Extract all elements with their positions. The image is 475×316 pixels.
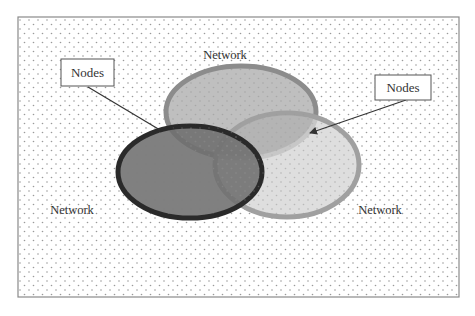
- network-label-left: Network: [50, 203, 94, 217]
- network-label-top: Network: [203, 48, 247, 62]
- venn-diagram: Nodes Nodes Network Network Network: [0, 0, 475, 316]
- nodes-label-right: Nodes: [386, 80, 419, 95]
- network-label-right: Network: [358, 203, 402, 217]
- nodes-label-left: Nodes: [71, 65, 104, 80]
